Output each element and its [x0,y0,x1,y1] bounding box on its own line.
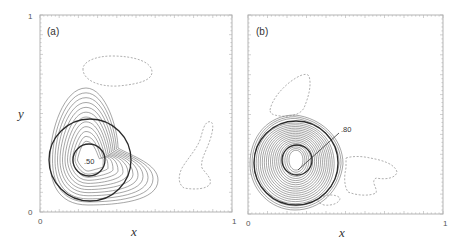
panel-a-frame [40,15,232,212]
positive-contours [50,88,158,205]
y-axis-label: y [16,106,24,121]
y-tick-label-top: 1 [28,12,33,21]
panel-label: (a) [47,26,59,37]
positive-contour [258,125,332,202]
inner-circle [282,145,312,175]
panel-b-frame [248,15,443,214]
x-axis-label: x [338,225,345,240]
y-tick-label-bottom: 0 [28,208,33,217]
contour-annotation: .80 [341,125,351,134]
panel-a: .50 (a) 1 0 0 1 x y [16,12,237,239]
positive-contours [250,115,343,210]
negative-contour [270,74,310,116]
panel-label: (b) [256,26,268,37]
positive-contour [50,88,158,205]
panel-b-ticks [248,15,443,214]
positive-contour [250,115,343,210]
negative-contour [345,157,397,196]
x-tick-label-right: 1 [443,219,448,228]
x-tick-label-right: 1 [232,217,237,226]
x-tick-label-left: 0 [246,219,251,228]
positive-contour [271,135,321,189]
positive-contour [252,117,341,208]
panel-b: .80 (b) 0 1 x [246,15,448,240]
positive-contour [63,112,134,189]
positive-contour [264,130,326,195]
negative-contour [83,56,152,86]
x-axis-label: x [130,224,137,239]
contour-annotation: .50 [84,157,94,166]
positive-contour [266,132,324,194]
negative-contour [179,122,213,189]
panel-a-ticks [40,15,232,212]
positive-contour [287,149,305,173]
x-tick-label-left: 0 [38,217,43,226]
figure: .50 (a) 1 0 0 1 x y .80 (b) 0 1 x [0,0,461,243]
